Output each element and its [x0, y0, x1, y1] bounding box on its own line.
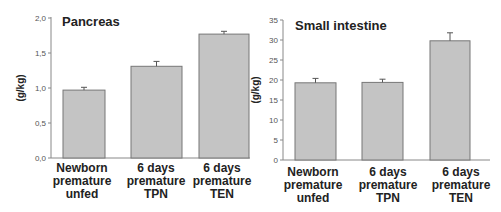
y-ticks: 05101520253035: [269, 16, 283, 165]
category-label: 6 days: [369, 165, 407, 179]
y-tick-label: 30: [269, 36, 278, 45]
chart-title: Small intestine: [295, 18, 387, 33]
category-label: premature: [359, 178, 418, 192]
category-label: premature: [53, 174, 112, 188]
category-labels: Newbornprematureunfed6 daysprematureTPN6…: [284, 165, 491, 205]
category-label: TEN: [449, 191, 473, 205]
y-tick-label: 25: [269, 56, 278, 65]
y-tick-label: 0,5: [35, 119, 47, 128]
y-tick-label: 1,5: [35, 49, 47, 58]
category-label: 6 days: [442, 165, 480, 179]
category-label: unfed: [297, 191, 330, 205]
category-label: TEN: [210, 187, 234, 201]
y-tick-label: 1,0: [35, 84, 47, 93]
category-label: TPN: [376, 191, 400, 205]
bars: [295, 33, 470, 160]
y-axis-label: (g/kg): [15, 74, 26, 101]
y-tick-label: 10: [269, 116, 278, 125]
bars: [63, 31, 249, 158]
category-label: premature: [284, 178, 343, 192]
category-label: premature: [432, 178, 491, 192]
bar: [131, 66, 182, 158]
y-tick-label: 5: [274, 136, 279, 145]
category-label: premature: [127, 174, 186, 188]
y-tick-label: 20: [269, 76, 278, 85]
category-label: premature: [193, 174, 252, 188]
pancreas-chart: Pancreas (g/kg) 0,00,51,01,52,0 Newbornp…: [15, 14, 252, 201]
bar: [430, 41, 470, 160]
y-ticks: 0,00,51,01,52,0: [35, 14, 51, 163]
y-tick-label: 0,0: [35, 154, 47, 163]
y-tick-label: 15: [269, 96, 278, 105]
bar: [362, 82, 403, 160]
category-label: 6 days: [203, 161, 241, 175]
bar: [199, 34, 249, 158]
category-label: Newborn: [287, 165, 338, 179]
chart-title: Pancreas: [62, 14, 120, 29]
y-tick-label: 2,0: [35, 14, 47, 23]
category-label: 6 days: [137, 161, 175, 175]
category-label: unfed: [66, 187, 99, 201]
bar: [295, 83, 336, 160]
y-axis-label: (g/kg): [250, 76, 261, 103]
y-tick-label: 35: [269, 16, 278, 25]
bar: [63, 90, 105, 158]
category-label: TPN: [144, 187, 168, 201]
category-label: Newborn: [56, 161, 107, 175]
small-intestine-chart: Small intestine (g/kg) 05101520253035 Ne…: [250, 16, 491, 205]
y-tick-label: 0: [274, 156, 279, 165]
category-labels: Newbornprematureunfed6 daysprematureTPN6…: [53, 161, 252, 201]
